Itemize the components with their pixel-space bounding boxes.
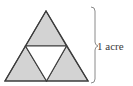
diagram-canvas: 1 acre [0, 0, 133, 86]
shaded-triangle-top [26, 11, 67, 46]
area-label: 1 acre [97, 39, 124, 53]
